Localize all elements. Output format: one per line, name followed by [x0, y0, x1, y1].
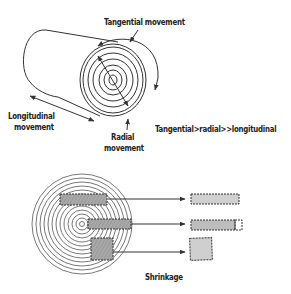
tangential-board	[60, 194, 107, 205]
tangential-movement-label: Tangential movement	[104, 16, 185, 27]
longitudinal-movement-label-line2: movement	[14, 121, 54, 132]
shrunk-tangential-board	[191, 194, 239, 204]
square-piece	[91, 238, 113, 260]
wood-movement-diagram: Tangential movement Longitudinal movemen…	[0, 0, 291, 294]
movement-relation-label: Tangential>radial>>longitudinal	[155, 123, 276, 134]
log-cylinder	[23, 30, 146, 116]
radial-board	[88, 219, 131, 229]
shrunk-square-piece	[190, 238, 213, 261]
longitudinal-movement-label-line1: Longitudinal	[8, 110, 55, 121]
shrunk-radial-board	[191, 220, 235, 230]
diagram-graphics	[0, 0, 291, 294]
radial-movement-label-line2: movement	[104, 142, 144, 153]
tangential-arrow	[98, 39, 158, 90]
radial-movement-label-line1: Radial	[111, 131, 134, 142]
radial-pointer	[127, 119, 128, 130]
shrunken-pieces	[190, 194, 242, 260]
radial-board-original-outline	[235, 220, 242, 230]
shrinkage-label: Shrinkage	[145, 271, 183, 282]
tangential-pointer	[130, 30, 138, 42]
